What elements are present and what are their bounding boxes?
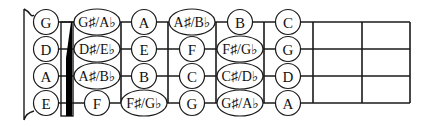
note-a-fret-1: A♯/B♭ bbox=[74, 63, 120, 89]
note-g-fret-2: A bbox=[132, 10, 157, 35]
note-label: A bbox=[139, 15, 150, 31]
note-label: G bbox=[41, 15, 52, 31]
note-e-open: E bbox=[34, 91, 59, 116]
note-label: F♯/G♭ bbox=[126, 96, 161, 111]
note-label: G bbox=[283, 42, 294, 58]
frets bbox=[121, 22, 410, 103]
note-d-fret-4: F♯/G♭ bbox=[217, 36, 263, 62]
note-d-fret-1: D♯/E♭ bbox=[74, 36, 120, 62]
note-g-fret-5: C bbox=[276, 10, 301, 35]
note-label: C bbox=[187, 69, 197, 85]
note-e-fret-3: G bbox=[180, 91, 205, 116]
note-e-fret-4: G♯/A♭ bbox=[217, 90, 263, 116]
note-label: E bbox=[139, 42, 148, 58]
note-g-fret-3: A♯/B♭ bbox=[169, 9, 215, 35]
note-a-fret-4: C♯/D♭ bbox=[217, 63, 263, 89]
headstock-bracket bbox=[24, 9, 34, 120]
note-label: D bbox=[41, 42, 52, 58]
note-label: D bbox=[283, 69, 294, 85]
note-d-fret-2: E bbox=[132, 37, 157, 62]
note-label: C♯/D♭ bbox=[222, 69, 259, 84]
note-label: G bbox=[187, 96, 198, 112]
nut bbox=[61, 22, 73, 116]
note-e-fret-2: F♯/G♭ bbox=[121, 90, 167, 116]
fretboard-diagram: GG♯/A♭AA♯/B♭BCDD♯/E♭EFF♯/G♭GAA♯/B♭BCC♯/D… bbox=[0, 0, 431, 126]
note-label: F bbox=[188, 42, 196, 58]
note-label: A bbox=[283, 96, 294, 112]
note-label: B bbox=[139, 69, 149, 85]
note-d-fret-5: G bbox=[276, 37, 301, 62]
note-g-fret-1: G♯/A♭ bbox=[74, 9, 120, 35]
nut-fill bbox=[66, 22, 72, 116]
note-label: F bbox=[93, 96, 101, 112]
note-label: A♯/B♭ bbox=[79, 69, 116, 84]
note-label: B bbox=[235, 15, 245, 31]
note-d-open: D bbox=[34, 37, 59, 62]
note-label: C bbox=[283, 15, 293, 31]
note-label: F♯/G♭ bbox=[222, 42, 257, 57]
note-e-fret-5: A bbox=[276, 91, 301, 116]
note-label: G♯/A♭ bbox=[78, 15, 116, 30]
note-label: G♯/A♭ bbox=[221, 96, 259, 111]
note-d-fret-3: F bbox=[180, 37, 205, 62]
note-label: A♯/B♭ bbox=[174, 15, 211, 30]
note-a-fret-3: C bbox=[180, 64, 205, 89]
note-a-open: A bbox=[34, 64, 59, 89]
note-label: E bbox=[41, 96, 50, 112]
note-a-fret-2: B bbox=[132, 64, 157, 89]
note-e-fret-1: F bbox=[85, 91, 110, 116]
note-label: A bbox=[41, 69, 52, 85]
note-a-fret-5: D bbox=[276, 64, 301, 89]
note-g-open: G bbox=[34, 10, 59, 35]
note-label: D♯/E♭ bbox=[79, 42, 115, 57]
note-g-fret-4: B bbox=[228, 10, 253, 35]
